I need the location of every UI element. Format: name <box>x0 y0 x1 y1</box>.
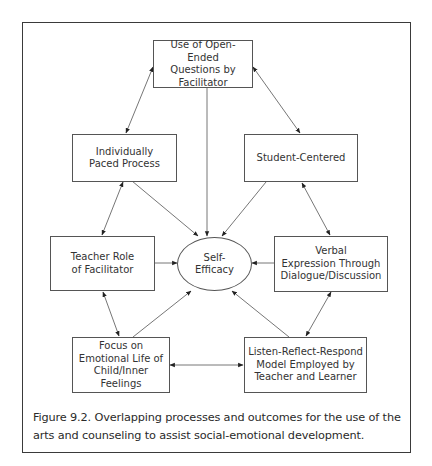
node-focus-emotional: Focus on Emotional Life of Child/Inner F… <box>72 337 170 393</box>
node-individually-paced: Individually Paced Process <box>72 134 177 182</box>
edge-focus-self-efficacy <box>133 291 191 337</box>
node-listen-reflect-respond: Listen-Reflect-Respond Model Employed by… <box>244 337 367 393</box>
edge-open-ended-individually-paced <box>126 67 153 133</box>
node-teacher-role: Teacher Role of Facilitator <box>50 236 155 291</box>
node-open-ended-questions: Use of Open-Ended Questions by Facilitat… <box>153 40 253 88</box>
edge-open-ended-student-centered <box>253 67 300 133</box>
edge-teacher-role-focus <box>103 292 119 336</box>
node-verbal-expression: Verbal Expression Through Dialogue/Discu… <box>274 236 388 292</box>
edge-listen-self-efficacy <box>232 291 289 337</box>
figure-caption: Figure 9.2. Overlapping processes and ou… <box>33 409 407 445</box>
edge-student-centered-self-efficacy <box>222 182 266 236</box>
node-student-centered: Student-Centered <box>244 134 358 182</box>
edge-individually-paced-teacher-role <box>102 182 123 235</box>
edge-student-centered-verbal <box>302 183 330 235</box>
edge-individually-paced-self-efficacy <box>132 181 198 236</box>
node-self-efficacy: Self- Efficacy <box>177 237 252 291</box>
edge-verbal-listen <box>306 292 331 336</box>
